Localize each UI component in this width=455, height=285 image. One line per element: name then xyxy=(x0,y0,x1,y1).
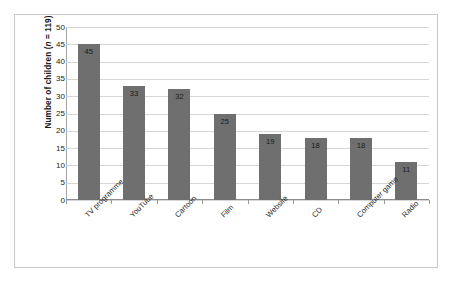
bar-cd: 18 xyxy=(305,138,327,200)
bar-computer-game: 18 xyxy=(350,138,372,200)
y-axis-tick-label: 15 xyxy=(41,144,65,153)
x-axis-tick xyxy=(157,200,158,204)
plot-area: 4533322519181811 xyxy=(66,27,429,200)
y-axis-tick-label: 30 xyxy=(41,92,65,101)
gridline xyxy=(66,148,429,149)
bar-value-label: 33 xyxy=(123,89,145,98)
y-axis-tick-labels: 50454035302520151050 xyxy=(41,21,65,209)
bar-cartoon: 32 xyxy=(168,89,190,200)
y-axis-tick-label: 20 xyxy=(41,126,65,135)
y-axis-tick-label: 40 xyxy=(41,57,65,66)
gridline xyxy=(66,79,429,80)
x-axis-tick xyxy=(66,200,67,204)
x-axis-tick xyxy=(111,200,112,204)
x-axis-tick xyxy=(429,200,430,204)
y-axis-tick-label: 50 xyxy=(41,23,65,32)
gridline xyxy=(66,165,429,166)
y-axis-tick-label: 10 xyxy=(41,161,65,170)
bar-value-label: 32 xyxy=(168,92,190,101)
x-axis-tick xyxy=(248,200,249,204)
y-axis-tick-label: 35 xyxy=(41,74,65,83)
chart-figure: Number of children (n = 119) 50454035302… xyxy=(0,0,455,285)
bar-value-label: 18 xyxy=(350,141,372,150)
bar-value-label: 19 xyxy=(259,137,281,146)
x-axis-label-film: Film xyxy=(219,203,236,220)
x-axis-tick xyxy=(338,200,339,204)
bar-value-label: 11 xyxy=(395,165,417,174)
x-axis-tick xyxy=(202,200,203,204)
bar-value-label: 25 xyxy=(214,117,236,126)
x-axis-label-cd: CD xyxy=(310,205,324,219)
y-axis-tick-label: 45 xyxy=(41,40,65,49)
bar-film: 25 xyxy=(214,114,236,201)
x-axis-category-labels: TV programmeYouTubeCartoonFilmWebsiteCDC… xyxy=(66,205,446,265)
y-axis-tick-label: 25 xyxy=(41,109,65,118)
y-axis-tick-label: 0 xyxy=(41,196,65,205)
chart-frame: Number of children (n = 119) 50454035302… xyxy=(14,14,438,268)
x-axis-tick xyxy=(293,200,294,204)
bar-tv-programme: 45 xyxy=(78,44,100,200)
bar-youtube: 33 xyxy=(123,86,145,200)
bar-value-label: 18 xyxy=(305,141,327,150)
gridline xyxy=(66,96,429,97)
bar-website: 19 xyxy=(259,134,281,200)
gridline xyxy=(66,62,429,63)
gridline xyxy=(66,114,429,115)
gridline xyxy=(66,131,429,132)
gridline xyxy=(66,44,429,45)
x-axis-tick xyxy=(384,200,385,204)
gridline xyxy=(66,27,429,28)
y-axis-tick-label: 5 xyxy=(41,178,65,187)
bar-value-label: 45 xyxy=(78,47,100,56)
